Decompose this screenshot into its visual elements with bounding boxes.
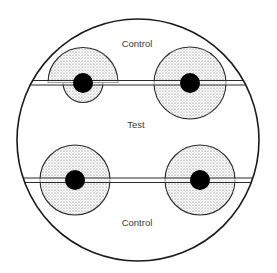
disc-lower-left <box>65 170 85 190</box>
agar-plate-diagram: Control Test Control <box>0 0 277 273</box>
lower-strip <box>10 178 270 183</box>
label-control-bottom: Control <box>122 217 153 228</box>
disc-upper-left <box>73 73 93 93</box>
disc-upper-right <box>180 73 200 93</box>
label-test: Test <box>127 119 145 130</box>
label-control-top: Control <box>122 38 153 49</box>
upper-strip <box>10 81 270 86</box>
disc-lower-right <box>190 170 210 190</box>
